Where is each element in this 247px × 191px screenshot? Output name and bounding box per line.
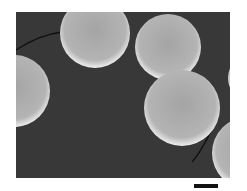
sphere-upper-right: [135, 14, 201, 80]
scale-bar: [194, 184, 218, 188]
micrograph: [16, 12, 230, 178]
sphere-lower-right: [144, 70, 220, 146]
